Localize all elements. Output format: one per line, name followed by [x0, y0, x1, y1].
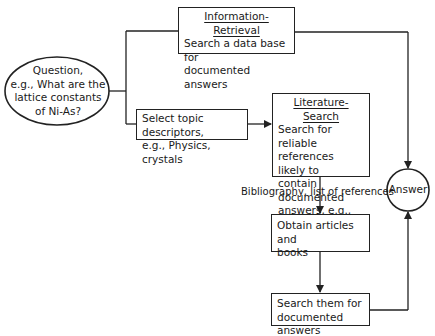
box-line: references likely to [278, 150, 364, 177]
box-line: Search them for [277, 297, 364, 311]
box-line: documented answers [277, 311, 364, 336]
box-line: Search a data base for [184, 37, 289, 64]
box-line: Search for reliable [278, 123, 364, 150]
question-text: Question, e.g., What are the lattice con… [10, 64, 106, 118]
question-line: lattice constants [10, 91, 106, 105]
answer-label: Answer [388, 183, 428, 195]
question-line: e.g., What are the [10, 78, 106, 92]
search-them-box: Search them for documented answers [271, 293, 370, 326]
select-topic-box: Select topic descriptors, e.g., Physics,… [136, 109, 248, 140]
literature-search-box: Literature-Search Search for reliable re… [272, 93, 370, 177]
box-line: books [277, 246, 364, 260]
obtain-articles-box: Obtain articles and books [271, 214, 370, 252]
box-line: documented answers [184, 64, 289, 91]
bibliography-label: Bibliography, list of references [241, 186, 394, 197]
information-retrieval-box: Information-Retrieval Search a data base… [178, 7, 295, 54]
box-line: Select topic descriptors, [142, 112, 242, 139]
literature-search-title: Literature-Search [278, 96, 364, 123]
information-retrieval-title: Information-Retrieval [184, 10, 289, 37]
question-line: of Ni-As? [10, 105, 106, 119]
box-line: Obtain articles and [277, 219, 364, 246]
box-line: e.g., Physics, crystals [142, 139, 242, 166]
question-line: Question, [10, 64, 106, 78]
